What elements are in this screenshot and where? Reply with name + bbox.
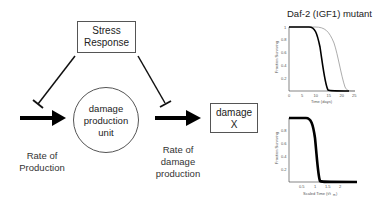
- svg-text:0.5: 0.5: [299, 184, 305, 189]
- svg-text:0.2: 0.2: [281, 76, 287, 81]
- rate-damage-line1: Rate of: [150, 144, 206, 156]
- damage-production-unit-circle: damage production unit: [73, 87, 139, 153]
- svg-text:): ): [336, 191, 338, 196]
- svg-text:Time (days): Time (days): [311, 99, 333, 104]
- chart-top: 1 0.8 0.6 0.4 0.2 0 5 10 15 20 25 Time (…: [274, 25, 357, 104]
- chart-top-title: Daf-2 (IGF1) mutant: [287, 8, 372, 19]
- circle-line1: damage: [74, 103, 138, 115]
- svg-text:Scaled Time (t/t: Scaled Time (t/t: [303, 191, 332, 196]
- svg-text:0.2: 0.2: [281, 167, 287, 172]
- stress-response-line2: Response: [78, 37, 135, 49]
- arrow-rate-production-head: [52, 110, 66, 126]
- circle-line3: unit: [74, 127, 138, 139]
- svg-text:0.6: 0.6: [281, 141, 287, 146]
- circle-line2: production: [74, 115, 138, 127]
- svg-text:0.6: 0.6: [281, 50, 287, 55]
- svg-text:0.4: 0.4: [281, 63, 287, 68]
- inhibition-line-left: [38, 56, 75, 104]
- damage-x-line1: damage: [211, 107, 257, 119]
- arrow-rate-damage-head: [186, 110, 201, 126]
- svg-text:1: 1: [284, 25, 287, 30]
- svg-text:Fraction Surviving: Fraction Surviving: [274, 132, 279, 164]
- rate-of-damage-production-label: Rate of damage production: [150, 144, 206, 180]
- svg-text:20: 20: [340, 93, 345, 98]
- svg-text:1.5: 1.5: [325, 184, 331, 189]
- rate-damage-line2: damage: [150, 156, 206, 168]
- svg-text:0.8: 0.8: [281, 128, 287, 133]
- svg-text:0: 0: [288, 93, 291, 98]
- svg-text:15: 15: [327, 93, 332, 98]
- stress-response-box: Stress Response: [77, 21, 136, 53]
- stress-response-line1: Stress: [78, 25, 135, 37]
- inhibition-bar-right: [160, 101, 171, 107]
- rate-production-line1: Rate of: [14, 150, 70, 162]
- rate-production-line2: Production: [14, 162, 70, 174]
- chart-bottom: 0.8 0.6 0.4 0.2 0.5 1 1.5 2 Scaled Time …: [274, 118, 357, 197]
- svg-text:0.4: 0.4: [281, 154, 287, 159]
- rate-of-production-label: Rate of Production: [14, 150, 70, 174]
- svg-text:25: 25: [352, 93, 357, 98]
- svg-text:0.8: 0.8: [281, 37, 287, 42]
- svg-text:2: 2: [339, 184, 342, 189]
- damage-x-line2: X: [211, 119, 257, 131]
- svg-text:Fraction Surviving: Fraction Surviving: [274, 41, 279, 73]
- svg-text:5: 5: [301, 93, 304, 98]
- inhibition-bar-left: [33, 100, 43, 108]
- damage-x-box: damage X: [210, 103, 258, 133]
- rate-damage-line3: production: [150, 168, 206, 180]
- inhibition-line-right: [138, 56, 165, 103]
- svg-text:1: 1: [314, 184, 317, 189]
- svg-text:10: 10: [314, 93, 319, 98]
